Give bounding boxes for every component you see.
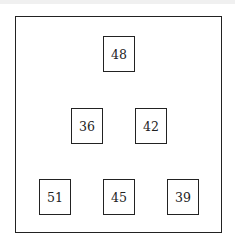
pyramid-cell-row3-1: 51 xyxy=(39,179,71,215)
pyramid-cell-row3-2: 45 xyxy=(103,179,135,215)
pyramid-cell-row3-3: 39 xyxy=(167,179,199,215)
pyramid-cell-row2-1: 36 xyxy=(71,108,103,144)
pyramid-cell-row1-1: 48 xyxy=(103,36,135,72)
pyramid-cell-row2-2: 42 xyxy=(135,108,167,144)
top-strip xyxy=(0,0,235,4)
